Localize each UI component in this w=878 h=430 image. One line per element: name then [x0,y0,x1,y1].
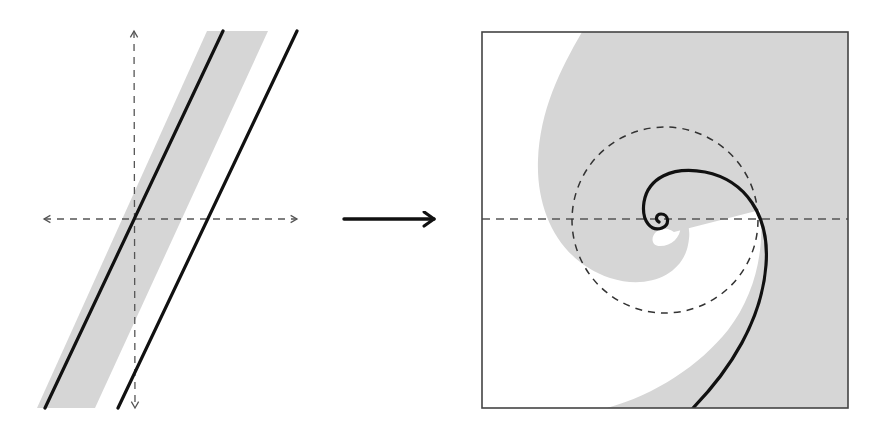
diagram-stage: Conformal-style mapping: a sheared strip… [0,0,878,430]
diagram-canvas [0,0,878,430]
left-panel [37,31,297,408]
right-panel [482,32,848,408]
